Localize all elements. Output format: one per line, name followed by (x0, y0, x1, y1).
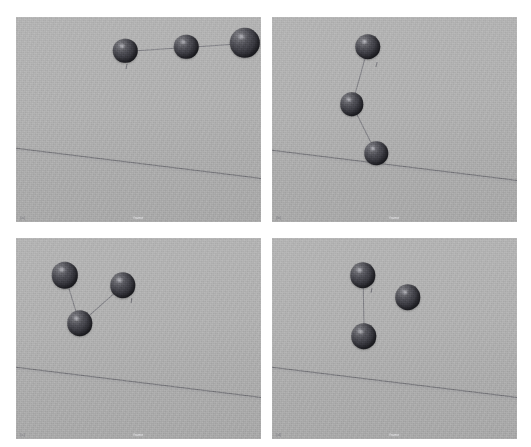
panel-bottom-caption: frame (133, 216, 145, 220)
panel-top-left[interactable]: (a)frame (16, 17, 261, 222)
panel-index-label: (a) (20, 215, 26, 220)
panel-index-label: (d) (276, 432, 282, 437)
panel-backdrop (16, 17, 261, 222)
panel-bottom-right[interactable]: (d)frame (272, 238, 517, 439)
panel-bottom-caption: frame (133, 433, 145, 437)
sphere-object[interactable] (113, 39, 138, 64)
panel-bottom-left[interactable]: (c)frame (16, 238, 261, 439)
figure-root: (a)frame(b)frame(c)frame(d)frame (0, 0, 531, 447)
sphere-object[interactable] (340, 92, 364, 116)
panel-bottom-caption: frame (389, 433, 401, 437)
panel-backdrop (272, 238, 517, 439)
panel-backdrop (272, 17, 517, 222)
sphere-object[interactable] (364, 142, 388, 166)
panel-index-label: (b) (276, 215, 282, 220)
sphere-object[interactable] (174, 34, 199, 59)
panel-index-label: (c) (20, 432, 25, 437)
panel-bottom-caption: frame (389, 216, 401, 220)
panel-top-right[interactable]: (b)frame (272, 17, 517, 222)
